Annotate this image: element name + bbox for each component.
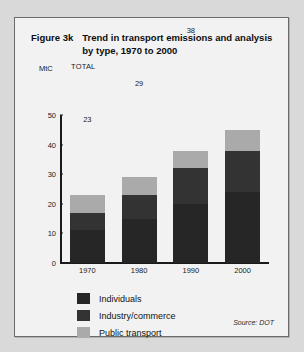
legend-swatch — [77, 327, 90, 338]
figure-header: Figure 3k Trend in transport emissions a… — [31, 31, 276, 57]
figure-page: Figure 3k Trend in transport emissions a… — [0, 0, 304, 352]
bar-total-value: 23 — [70, 115, 105, 124]
x-tick-label: 1990 — [165, 266, 217, 275]
bar-segment — [70, 213, 105, 231]
bar-stack: 38 — [173, 151, 208, 263]
legend-item: Individuals — [77, 290, 176, 307]
y-tick-label: 40 — [15, 140, 60, 149]
legend-item: Industry/commerce — [77, 307, 176, 324]
y-tick-label: 20 — [15, 199, 60, 208]
chart-legend: IndividualsIndustry/commercePublic trans… — [77, 290, 176, 341]
bar-stack: 45 — [225, 130, 260, 263]
bar-segment — [70, 195, 105, 213]
plot-bars: 23293845 — [62, 115, 269, 263]
y-tick-label: 0 — [15, 259, 60, 268]
bar-total-value: 38 — [173, 26, 208, 35]
bar-segment — [225, 192, 260, 263]
bar-segment — [122, 219, 157, 263]
figure-panel: Figure 3k Trend in transport emissions a… — [14, 17, 289, 337]
bar-stack: 23 — [70, 195, 105, 263]
legend-swatch — [77, 293, 90, 304]
legend-item: Public transport — [77, 324, 176, 341]
source-note: Source: DOT — [233, 319, 274, 326]
total-column-header: TOTAL — [71, 62, 95, 71]
bar-segment — [225, 151, 260, 192]
bar-segment — [173, 204, 208, 263]
y-tick-label: 50 — [15, 111, 60, 120]
bar-segment — [122, 177, 157, 195]
legend-label: Public transport — [99, 328, 162, 338]
legend-swatch — [77, 310, 90, 321]
x-tick-label: 1970 — [62, 266, 114, 275]
bar-total-value: 29 — [122, 79, 157, 88]
bar-segment — [173, 151, 208, 169]
bar-segment — [225, 130, 260, 151]
legend-label: Industry/commerce — [99, 311, 176, 321]
y-tick-label: 10 — [15, 229, 60, 238]
y-axis-unit-label: MtC — [39, 64, 53, 73]
figure-label: Figure 3k — [31, 31, 73, 44]
x-tick-label: 1980 — [113, 266, 165, 275]
bar-segment — [122, 195, 157, 219]
x-tick-label: 2000 — [217, 266, 269, 275]
bar-segment — [70, 230, 105, 263]
bar-segment — [173, 168, 208, 204]
bar-stack: 29 — [122, 177, 157, 263]
legend-label: Individuals — [99, 294, 142, 304]
y-tick-label: 30 — [15, 170, 60, 179]
chart-area: MtC TOTAL 01020304050 23293845 197019801… — [15, 62, 290, 280]
